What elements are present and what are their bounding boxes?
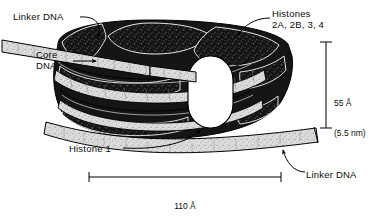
dimension-label-height: 55 Å (5.5 nm): [334, 78, 366, 158]
dimension-label-width: 110 Å (11 nm): [137, 181, 233, 216]
histone-1-body: [188, 56, 233, 128]
leader-linker-bottom: [283, 150, 305, 172]
dimension-bar-vertical: [320, 42, 332, 128]
dimension-height-nm: (5.5 nm): [334, 128, 366, 138]
label-histones: Histones 2A, 2B, 3, 4: [272, 8, 324, 30]
dimension-height-value: 55 Å: [334, 98, 366, 108]
label-linker-dna-top: Linker DNA: [13, 11, 64, 22]
label-core-dna: Core DNA: [36, 49, 57, 71]
figure-canvas: Linker DNA Core DNA Histones 2A, 2B, 3, …: [0, 0, 384, 216]
label-histone-1: Histone 1: [69, 143, 111, 154]
dimension-width-value: 110 Å: [137, 201, 233, 211]
label-linker-dna-bottom: Linker DNA: [306, 169, 357, 180]
